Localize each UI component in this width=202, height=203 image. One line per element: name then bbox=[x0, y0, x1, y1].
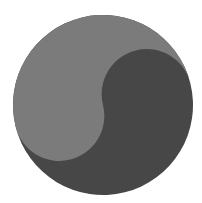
yin-yang-figure bbox=[0, 0, 202, 203]
yin-yang-icon bbox=[0, 0, 202, 203]
